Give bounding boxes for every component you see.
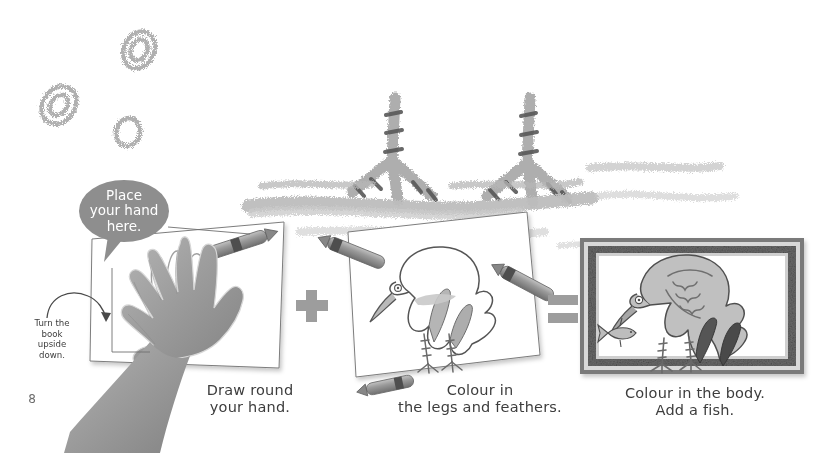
step-3-caption: Colour in the body. Add a fish. bbox=[595, 385, 795, 419]
page-canvas: Place your hand here. Turn the book upsi… bbox=[0, 0, 826, 453]
plus-operator bbox=[296, 290, 328, 322]
step-1-caption: Draw round your hand. bbox=[160, 382, 340, 416]
equals-operator bbox=[548, 295, 578, 323]
speech-bubble-label: Place your hand here. bbox=[79, 188, 169, 234]
turn-book-note: Turn the book upside down. bbox=[24, 318, 80, 361]
step-2-caption: Colour in the legs and feathers. bbox=[375, 382, 585, 416]
page-number: 8 bbox=[22, 392, 42, 406]
